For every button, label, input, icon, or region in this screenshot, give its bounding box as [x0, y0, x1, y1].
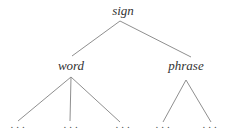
edge-sign-phrase	[120, 21, 191, 57]
edge-word-child-3	[71, 77, 120, 122]
edge-word-child-1	[18, 77, 71, 121]
leaf-ellipsis-word-1: ...	[10, 119, 27, 130]
edge-word-child-2	[70, 77, 71, 121]
node-label-phrase: phrase	[168, 59, 203, 73]
leaf-ellipsis-word-3: ...	[115, 119, 132, 130]
edge-phrase-child-2	[186, 80, 211, 122]
node-label-word: word	[58, 59, 84, 73]
leaf-ellipsis-phrase-1: ...	[155, 119, 172, 130]
leaf-ellipsis-word-2: ...	[63, 119, 80, 130]
edge-phrase-child-1	[163, 80, 186, 122]
edge-sign-word	[72, 21, 120, 56]
leaf-ellipsis-phrase-2: ...	[202, 119, 219, 130]
tree-diagram: sign word phrase ... ... ... ... ...	[0, 0, 235, 138]
root-node-label-sign: sign	[112, 4, 134, 18]
